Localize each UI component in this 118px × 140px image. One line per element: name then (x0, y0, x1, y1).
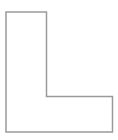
figure-canvas: L-shaped polygon outline (0, 0, 118, 140)
l-shape-svg (0, 0, 118, 140)
l-shape-polygon (6, 12, 113, 132)
